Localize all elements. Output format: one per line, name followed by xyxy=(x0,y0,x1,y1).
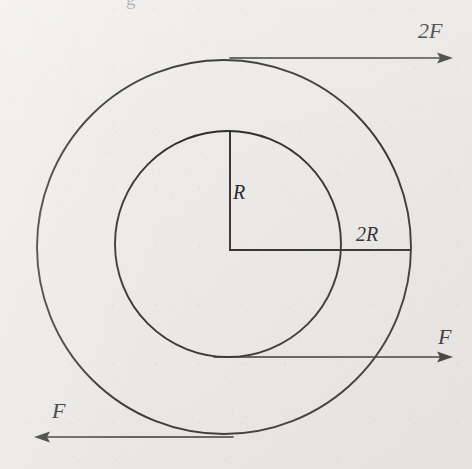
figure-canvas: g 2F R 2R F F xyxy=(0,0,472,469)
diagram-svg xyxy=(0,0,472,469)
inner-circle xyxy=(115,131,341,357)
force-arrow-right xyxy=(214,352,453,363)
radius-label-outer: 2R xyxy=(356,224,378,244)
force-label-top: 2F xyxy=(418,20,442,42)
force-label-right: F xyxy=(438,326,451,348)
force-arrow-top xyxy=(230,53,453,64)
force-label-left: F xyxy=(52,400,65,422)
outer-circle xyxy=(37,60,411,434)
radius-label-inner: R xyxy=(233,182,245,202)
clipped-top-glyph: g xyxy=(126,0,136,10)
